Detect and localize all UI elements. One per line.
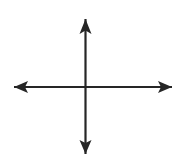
- axes-cross-diagram: [0, 0, 182, 163]
- diagram-canvas: [0, 0, 182, 163]
